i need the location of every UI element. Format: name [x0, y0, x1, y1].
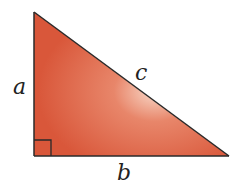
label-a: a — [13, 74, 26, 99]
label-b: b — [117, 160, 131, 183]
right-triangle-diagram: a c b — [0, 0, 245, 183]
label-c: c — [135, 60, 147, 85]
